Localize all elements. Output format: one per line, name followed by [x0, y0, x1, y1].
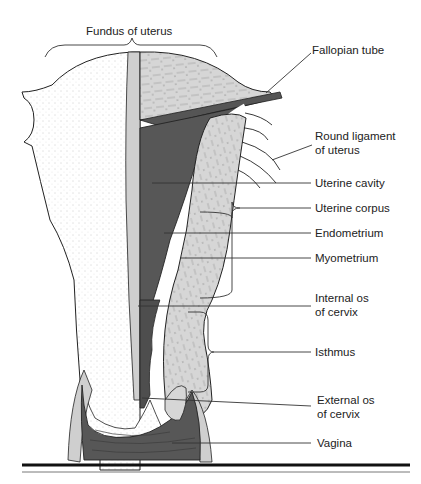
label-external-os-2: of cervix [317, 408, 360, 420]
label-external-os-1: External os [317, 394, 375, 406]
label-isthmus: Isthmus [315, 346, 356, 358]
label-internal-os-1: Internal os [315, 292, 369, 304]
leader-fallopian-tube [266, 53, 311, 93]
label-endometrium: Endometrium [315, 227, 383, 239]
label-fallopian-tube: Fallopian tube [312, 44, 384, 56]
endometrium-wedge [140, 300, 160, 408]
label-internal-os-2: of cervix [315, 306, 358, 318]
label-myometrium: Myometrium [315, 252, 378, 264]
label-round-ligament-2: of uterus [315, 144, 360, 156]
leader-round-ligament [272, 145, 312, 160]
label-round-ligament-1: Round ligament [315, 130, 396, 142]
label-fundus: Fundus of uterus [86, 25, 173, 37]
label-vagina: Vagina [317, 437, 353, 449]
label-uterine-cavity: Uterine cavity [315, 177, 385, 189]
label-uterine-corpus: Uterine corpus [315, 202, 390, 214]
uterus-diagram: Fundus of uterus Fallopian tube Round li… [0, 0, 421, 484]
